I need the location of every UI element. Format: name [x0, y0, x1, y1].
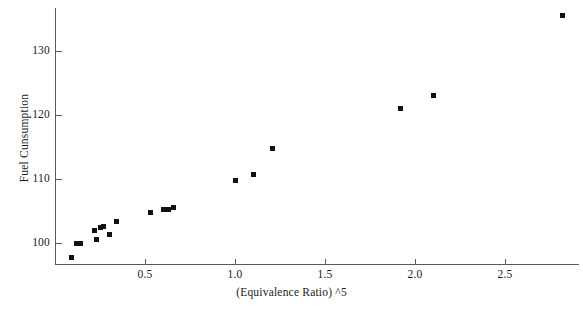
data-point: [171, 205, 176, 210]
data-point: [161, 207, 166, 212]
x-tick-mark: [145, 259, 146, 265]
data-point: [114, 219, 119, 224]
x-tick-mark: [235, 259, 236, 265]
data-point: [101, 224, 106, 229]
y-tick-label: 100: [16, 236, 50, 248]
data-point: [92, 228, 97, 233]
x-tick-mark: [415, 259, 416, 265]
x-tick-label: 1.5: [305, 268, 345, 280]
x-tick-mark: [505, 259, 506, 265]
data-point: [69, 255, 74, 260]
data-point: [431, 93, 436, 98]
y-tick-mark: [56, 51, 62, 52]
data-point: [233, 178, 238, 183]
x-tick-label: 2.5: [485, 268, 525, 280]
x-tick-label: 1.0: [215, 268, 255, 280]
data-point: [560, 13, 565, 18]
x-tick-label: 0.5: [125, 268, 165, 280]
x-axis-line: [55, 264, 579, 265]
x-axis-title: (Equivalence Ratio) ^5: [0, 286, 583, 298]
y-tick-mark: [56, 243, 62, 244]
data-point: [270, 146, 275, 151]
x-tick-label: 2.0: [395, 268, 435, 280]
x-tick-mark: [325, 259, 326, 265]
data-point: [148, 210, 153, 215]
data-point: [166, 207, 171, 212]
y-tick-label: 130: [16, 44, 50, 56]
data-point: [78, 241, 83, 246]
scatter-plot-figure: 100110120130 0.51.01.52.02.5 Fuel Cunsum…: [0, 0, 583, 314]
data-point: [94, 237, 99, 242]
y-axis-line: [55, 8, 56, 264]
y-axis-title: Fuel Cunsumption: [18, 68, 30, 208]
y-tick-mark: [56, 115, 62, 116]
data-point: [251, 172, 256, 177]
data-point: [107, 232, 112, 237]
y-tick-mark: [56, 179, 62, 180]
data-point: [398, 106, 403, 111]
plot-area: 100110120130 0.51.01.52.02.5 Fuel Cunsum…: [0, 0, 583, 314]
